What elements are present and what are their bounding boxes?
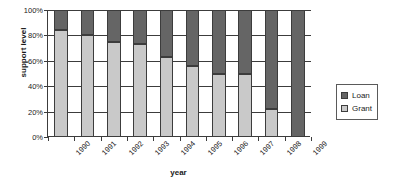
- bar-segment-grant[interactable]: [265, 109, 279, 137]
- y-tick-mark: [44, 35, 48, 36]
- bar-segment-loan[interactable]: [81, 10, 95, 35]
- bar-segment-loan[interactable]: [238, 10, 252, 74]
- bar-column[interactable]: [212, 10, 226, 137]
- y-tick-label: 20%: [13, 107, 43, 116]
- bar-segment-grant[interactable]: [107, 42, 121, 137]
- y-tick-label: 60%: [13, 56, 43, 65]
- bar-column[interactable]: [81, 10, 95, 137]
- y-tick-mark: [44, 112, 48, 113]
- bar-column[interactable]: [160, 10, 174, 137]
- y-tick-mark: [44, 10, 48, 11]
- legend-label: Loan: [352, 91, 370, 100]
- x-tick-label: 1990: [74, 139, 92, 157]
- bar-segment-loan[interactable]: [291, 10, 305, 137]
- chart-figure: support level 0%20%40%60%80%100% 1990199…: [0, 0, 396, 183]
- legend-label: Grant: [352, 104, 372, 113]
- bar-column[interactable]: [238, 10, 252, 137]
- legend-item[interactable]: Loan: [341, 89, 372, 102]
- x-tick-label: 1996: [232, 139, 250, 157]
- bar-segment-grant[interactable]: [186, 66, 200, 137]
- bar-segment-grant[interactable]: [133, 44, 147, 137]
- bar-column[interactable]: [107, 10, 121, 137]
- bar-column[interactable]: [265, 10, 279, 137]
- bar-series-group: [48, 10, 311, 137]
- bar-segment-grant[interactable]: [238, 74, 252, 138]
- legend-swatch-icon: [341, 105, 348, 112]
- bar-segment-grant[interactable]: [212, 74, 226, 138]
- bar-segment-loan[interactable]: [212, 10, 226, 74]
- bar-segment-loan[interactable]: [107, 10, 121, 42]
- y-axis-tick-labels: 0%20%40%60%80%100%: [9, 0, 43, 183]
- bar-column[interactable]: [291, 10, 305, 137]
- bar-segment-grant[interactable]: [160, 57, 174, 137]
- x-tick-label: 1997: [258, 139, 276, 157]
- bar-segment-loan[interactable]: [265, 10, 279, 109]
- plot-area: [47, 10, 310, 137]
- x-tick-label: 1991: [100, 139, 118, 157]
- legend-swatch-icon: [341, 92, 348, 99]
- x-tick-label: 1992: [127, 139, 145, 157]
- bar-segment-grant[interactable]: [81, 35, 95, 137]
- bar-column[interactable]: [186, 10, 200, 137]
- bar-column[interactable]: [54, 10, 68, 137]
- y-tick-mark: [44, 61, 48, 62]
- y-tick-mark: [44, 86, 48, 87]
- x-tick-label: 1993: [153, 139, 171, 157]
- y-tick-label: 40%: [13, 82, 43, 91]
- x-tick-label: 1995: [206, 139, 224, 157]
- x-tick-label: 1994: [179, 139, 197, 157]
- bar-segment-grant[interactable]: [54, 30, 68, 137]
- bar-segment-loan[interactable]: [133, 10, 147, 44]
- chart-legend: LoanGrant: [336, 84, 378, 120]
- x-axis-title: year: [47, 168, 310, 177]
- bar-column[interactable]: [133, 10, 147, 137]
- x-axis-tick-labels: 1990199119921993199419951996199719981999: [47, 139, 310, 169]
- bar-segment-loan[interactable]: [54, 10, 68, 30]
- x-tick-mark: [311, 137, 312, 141]
- legend-item[interactable]: Grant: [341, 102, 372, 115]
- y-tick-label: 100%: [13, 6, 43, 15]
- y-tick-label: 80%: [13, 31, 43, 40]
- x-tick-label: 1998: [284, 139, 302, 157]
- bar-segment-loan[interactable]: [186, 10, 200, 66]
- y-tick-label: 0%: [13, 133, 43, 142]
- bar-segment-loan[interactable]: [160, 10, 174, 57]
- x-tick-label: 1999: [311, 139, 329, 157]
